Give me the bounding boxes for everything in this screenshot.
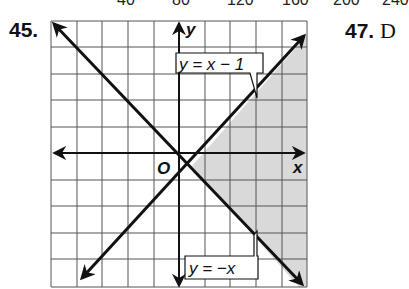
label-y-equals-x-minus-1: y = x − 1 xyxy=(178,55,244,74)
x-axis-label: x xyxy=(292,158,304,177)
callout-y-equals-x-minus-1: y = x − 1 xyxy=(176,53,263,98)
label-y-equals-neg-x: y = −x xyxy=(188,259,236,278)
callout-y-equals-neg-x: y = −x xyxy=(185,231,258,279)
origin-label: O xyxy=(157,159,170,178)
y-axis-label: y xyxy=(185,20,197,39)
